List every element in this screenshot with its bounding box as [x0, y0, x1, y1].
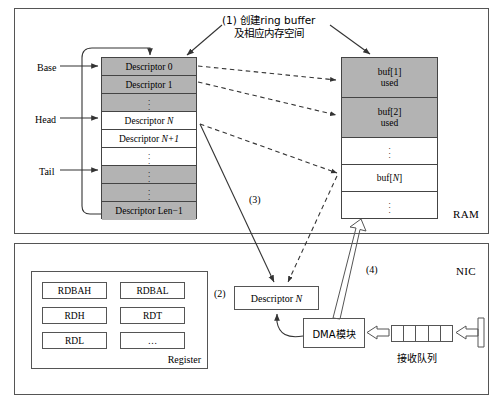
dma-to-descriptor-arrow — [277, 314, 303, 337]
step-4-dma-write-arrow — [333, 219, 366, 319]
pointer-arrows — [60, 66, 98, 170]
connector-layer — [0, 0, 501, 408]
buffer-to-nic-descriptor-link — [288, 176, 337, 282]
diagram-canvas: RAM NIC Descriptor 0 Descriptor 1 ... De… — [0, 0, 501, 408]
ring-wrap-bracket — [82, 48, 150, 214]
step-3-arrow — [200, 124, 274, 282]
descriptor-to-buffer-links — [198, 66, 337, 173]
ingress-to-queue-arrow — [456, 318, 484, 347]
step-1-arrows — [187, 25, 370, 55]
queue-to-dma-arrow — [367, 326, 389, 339]
